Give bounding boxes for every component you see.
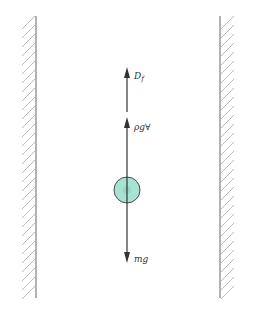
left-wall bbox=[22, 16, 36, 299]
weight-force-label: mg bbox=[134, 254, 149, 264]
right-wall-hatching bbox=[221, 16, 234, 299]
weight-force-arrow: mg bbox=[124, 203, 149, 264]
left-wall-hatching bbox=[22, 16, 35, 299]
drag-arrowhead-icon bbox=[124, 67, 130, 78]
right-wall bbox=[220, 16, 234, 299]
sphere bbox=[114, 177, 140, 203]
free-body-diagram: Df ρg∀ mg bbox=[0, 0, 254, 316]
buoyancy-arrowhead-icon bbox=[124, 117, 130, 128]
drag-force-label: Df bbox=[133, 71, 145, 83]
weight-arrowhead-icon bbox=[124, 252, 130, 263]
buoyancy-force-arrow: ρg∀ bbox=[124, 117, 151, 177]
drag-force-arrow: Df bbox=[124, 67, 145, 112]
buoyancy-force-label: ρg∀ bbox=[133, 122, 151, 132]
